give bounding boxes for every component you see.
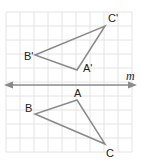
line-m-label: m (126, 69, 135, 83)
label-a-prime: A' (83, 62, 92, 74)
line-m: m (4, 69, 137, 89)
reflection-figure: m C' B' A' A B C (0, 0, 141, 167)
label-a: A (74, 87, 82, 99)
label-c: C (106, 147, 114, 159)
arrow-left-icon (4, 82, 13, 89)
label-b-prime: B' (24, 50, 33, 62)
grid (6, 12, 132, 152)
image-triangle (35, 26, 105, 70)
label-c-prime: C' (108, 12, 118, 24)
label-b: B (25, 102, 32, 114)
original-triangle (35, 100, 105, 144)
